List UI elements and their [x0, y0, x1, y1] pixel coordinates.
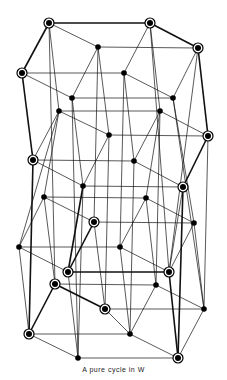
edge-A-D: [49, 23, 98, 47]
edge-S-T: [94, 222, 194, 223]
vertex-J: [157, 108, 163, 114]
vertex-Z: [153, 282, 159, 288]
edge-M-N: [33, 160, 134, 161]
edge-I-M: [33, 111, 59, 160]
edge-I-U: [19, 111, 59, 247]
vertex-Q: [41, 194, 47, 200]
edge-C-G: [173, 48, 198, 98]
edge-B-F: [124, 23, 150, 73]
circled-vertex-B: [145, 18, 155, 28]
edge-D-H: [72, 47, 98, 98]
edge-N-d: [130, 161, 134, 334]
edge-T-b: [194, 223, 204, 309]
edge-R-T: [146, 198, 194, 223]
edge-O-P: [83, 186, 183, 187]
edge-F-V: [120, 73, 124, 247]
vertex-b: [201, 306, 207, 312]
circled-vertex-M: [28, 155, 38, 165]
vertex-d: [127, 331, 133, 337]
edge-c-e: [29, 334, 78, 358]
circled-vertex-E: [17, 68, 27, 78]
vertex-I: [56, 108, 62, 114]
circled-vertex-L: [203, 131, 213, 141]
vertex-T: [191, 220, 197, 226]
edge-E-M: [22, 73, 33, 160]
edge-I-K: [59, 111, 109, 135]
vertex-H: [69, 95, 75, 101]
edge-F-N: [124, 73, 134, 161]
lattice-nodes: [16, 18, 213, 363]
edge-U-W: [19, 247, 68, 272]
lattice-diagram: [0, 0, 227, 380]
vertex-O: [80, 183, 86, 189]
circled-vertex-X: [164, 267, 174, 277]
edge-d-f: [130, 334, 178, 358]
circled-vertex-A: [44, 18, 54, 28]
vertex-V: [117, 244, 123, 250]
vertex-e: [75, 355, 81, 361]
edge-U-c: [19, 247, 29, 334]
edge-C-L: [198, 48, 208, 136]
circled-vertex-Y: [50, 279, 60, 289]
circled-vertex-c: [24, 329, 34, 339]
edge-F-G: [124, 73, 173, 98]
figure-caption: A pure cycle in W: [0, 366, 227, 373]
vertex-F: [121, 70, 127, 76]
edge-A-E: [22, 23, 49, 73]
circled-vertex-P: [178, 182, 188, 192]
vertex-R: [143, 195, 149, 201]
edge-Q-S: [44, 197, 94, 222]
edge-E-H: [22, 73, 72, 98]
edge-X-f: [169, 272, 178, 358]
vertex-K: [106, 132, 112, 138]
edge-D-K: [98, 47, 109, 135]
circled-vertex-f: [173, 353, 183, 363]
edge-J-L: [160, 111, 208, 136]
circled-vertex-W: [63, 267, 73, 277]
vertex-N: [131, 158, 137, 164]
edge-b-f: [178, 309, 204, 358]
circled-vertex-S: [89, 217, 99, 227]
circled-vertex-a: [100, 304, 110, 314]
edge-B-C: [150, 23, 198, 48]
edge-S-a: [94, 222, 105, 309]
edge-D-C: [98, 47, 198, 48]
vertex-U: [16, 244, 22, 250]
vertex-D: [95, 44, 101, 50]
edge-Q-R: [44, 197, 146, 198]
edge-Z-d: [130, 285, 156, 334]
circled-vertex-C: [193, 43, 203, 53]
edge-Y-c: [29, 284, 55, 334]
edge-V-d: [120, 247, 130, 334]
vertex-G: [170, 95, 176, 101]
edge-V-X: [120, 247, 169, 272]
edge-L-b: [204, 136, 208, 309]
edge-J-Z: [156, 111, 160, 285]
